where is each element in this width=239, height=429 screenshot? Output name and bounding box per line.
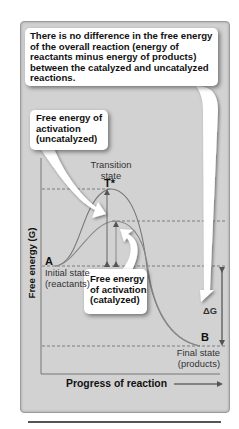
y-axis-label: Free energy (G): [26, 208, 38, 318]
transition-state-line1: Transition: [88, 160, 134, 171]
top-callout-pointer: [196, 86, 218, 302]
callout-catalyzed: Free energy of activation (catalyzed): [84, 269, 147, 314]
bottom-divider: [28, 421, 221, 423]
final-state-line2: (products): [172, 359, 220, 370]
point-b-label: B: [201, 332, 209, 343]
catalyzed-callout-pointer: [120, 229, 138, 270]
transition-symbol: T*: [104, 178, 115, 189]
point-a-label: A: [45, 256, 53, 267]
final-state-line1: Final state: [172, 348, 220, 359]
initial-state-line2: (reactants): [45, 279, 90, 290]
x-axis-label: Progress of reaction: [66, 378, 167, 389]
callout-no-difference: There is no difference in the free energ…: [25, 28, 218, 86]
callout-uncatalyzed: Free energy of activation (uncatalyzed): [30, 110, 108, 150]
final-state-label: Final state (products): [172, 348, 220, 369]
delta-g-label: ΔG: [203, 306, 217, 317]
initial-state-line1: Initial state: [45, 268, 90, 279]
initial-state-label: Initial state (reactants): [45, 268, 90, 289]
